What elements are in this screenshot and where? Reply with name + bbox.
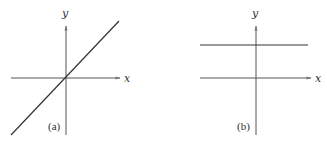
panel-label-a: (a) xyxy=(48,120,61,133)
y-axis-label: y xyxy=(251,7,259,20)
figure-canvas: x y (a) x y (b) xyxy=(0,0,327,143)
y-axis-label: y xyxy=(61,7,69,20)
panel-label-b: (b) xyxy=(237,120,250,133)
panel-a: x y (a) xyxy=(11,7,131,135)
x-axis-label: x xyxy=(124,72,131,85)
x-axis-label: x xyxy=(315,72,322,85)
panel-b: x y (b) xyxy=(200,7,322,135)
